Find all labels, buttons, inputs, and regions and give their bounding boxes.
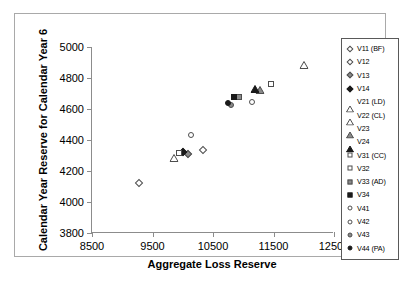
- legend-item[interactable]: V31 (CC): [345, 148, 396, 161]
- legend-item[interactable]: V41: [345, 202, 396, 215]
- x-tick-label: 8500: [80, 240, 104, 252]
- legend-item[interactable]: V33 (AD): [345, 175, 396, 188]
- y-tick-label: 4000: [60, 196, 84, 208]
- data-point: [231, 94, 237, 100]
- legend-label: V33 (AD): [357, 177, 386, 186]
- legend-marker-icon: [345, 217, 354, 226]
- data-point: [136, 180, 142, 186]
- x-tick-mark: [334, 232, 335, 237]
- legend-item[interactable]: V14: [345, 82, 396, 95]
- legend-label: V43: [357, 230, 370, 239]
- y-tick-label: 4600: [60, 103, 84, 115]
- data-point: [176, 150, 182, 156]
- legend-marker-icon: [345, 204, 354, 213]
- legend-label: V34: [357, 190, 370, 199]
- legend-label: V14: [357, 84, 370, 93]
- legend-item[interactable]: V21 (LD): [345, 95, 396, 108]
- legend-marker-icon: [345, 44, 354, 53]
- legend-label: V31 (CC): [357, 151, 386, 160]
- chart-legend: V11 (BF)V12V13V14V21 (LD)V22 (CL)V23V24V…: [341, 38, 399, 260]
- data-point: [249, 99, 255, 105]
- legend-marker-icon: [345, 111, 354, 120]
- x-tick-mark: [213, 232, 214, 237]
- legend-label: V22 (CL): [357, 111, 385, 120]
- y-axis-title-text: Calendar Year Reserve for Calendar Year …: [37, 29, 49, 251]
- x-tick-label: 11500: [259, 240, 289, 252]
- legend-item[interactable]: V23: [345, 122, 396, 135]
- legend-marker-icon: [345, 177, 354, 186]
- legend-label: V11 (BF): [357, 44, 384, 53]
- plot-area: 3800400042004400460048005000 85009500105…: [91, 47, 333, 233]
- legend-label: V41: [357, 204, 370, 213]
- y-tick-mark: [87, 202, 92, 203]
- legend-label: V12: [357, 57, 370, 66]
- data-point: [188, 132, 194, 138]
- legend-item[interactable]: V44 (PA): [345, 241, 396, 254]
- chart-frame: Calendar Year Reserve for Calendar Year …: [14, 13, 386, 257]
- legend-label: V23: [357, 124, 370, 133]
- legend-marker-icon: [345, 164, 354, 173]
- legend-label: V42: [357, 217, 370, 226]
- y-tick-mark: [87, 78, 92, 79]
- y-tick-mark: [87, 47, 92, 48]
- data-point: [299, 55, 308, 63]
- x-tick-label: 9500: [140, 240, 164, 252]
- y-tick-mark: [87, 171, 92, 172]
- y-tick-label: 4800: [60, 72, 84, 84]
- legend-marker-icon: [345, 230, 354, 239]
- y-tick-label: 4200: [60, 165, 84, 177]
- legend-label: V21 (LD): [357, 97, 385, 106]
- y-axis-title: Calendar Year Reserve for Calendar Year …: [35, 47, 51, 233]
- legend-item[interactable]: V11 (BF): [345, 42, 396, 55]
- x-tick-mark: [92, 232, 93, 237]
- data-point: [250, 79, 259, 87]
- legend-marker-icon: [345, 137, 354, 146]
- legend-label: V24: [357, 137, 370, 146]
- legend-label: V13: [357, 71, 370, 80]
- legend-marker-icon: [345, 57, 354, 66]
- legend-item[interactable]: V43: [345, 228, 396, 241]
- x-tick-mark: [153, 232, 154, 237]
- legend-label: V32: [357, 164, 370, 173]
- data-point: [268, 81, 274, 87]
- x-tick-label: 10500: [198, 240, 229, 252]
- x-tick-mark: [274, 232, 275, 237]
- legend-marker-icon: [345, 151, 354, 160]
- legend-marker-icon: [345, 124, 354, 133]
- x-axis-title: Aggregate Loss Reserve: [91, 258, 333, 270]
- data-point: [225, 100, 231, 106]
- legend-marker-icon: [345, 84, 354, 93]
- legend-item[interactable]: V22 (CL): [345, 108, 396, 121]
- y-tick-label: 5000: [60, 41, 84, 53]
- legend-item[interactable]: V32: [345, 162, 396, 175]
- y-tick-mark: [87, 140, 92, 141]
- legend-marker-icon: [345, 97, 354, 106]
- data-point: [200, 147, 206, 153]
- legend-item[interactable]: V12: [345, 55, 396, 68]
- legend-marker-icon: [345, 71, 354, 80]
- legend-item[interactable]: V42: [345, 215, 396, 228]
- chart-screenshot: Calendar Year Reserve for Calendar Year …: [0, 0, 400, 286]
- legend-label: V44 (PA): [357, 244, 385, 253]
- legend-item[interactable]: V13: [345, 69, 396, 82]
- legend-marker-icon: [345, 244, 354, 253]
- y-tick-label: 3800: [60, 227, 84, 239]
- y-tick-mark: [87, 109, 92, 110]
- legend-item[interactable]: V24: [345, 135, 396, 148]
- y-tick-label: 4400: [60, 134, 84, 146]
- legend-marker-icon: [345, 190, 354, 199]
- legend-item[interactable]: V34: [345, 188, 396, 201]
